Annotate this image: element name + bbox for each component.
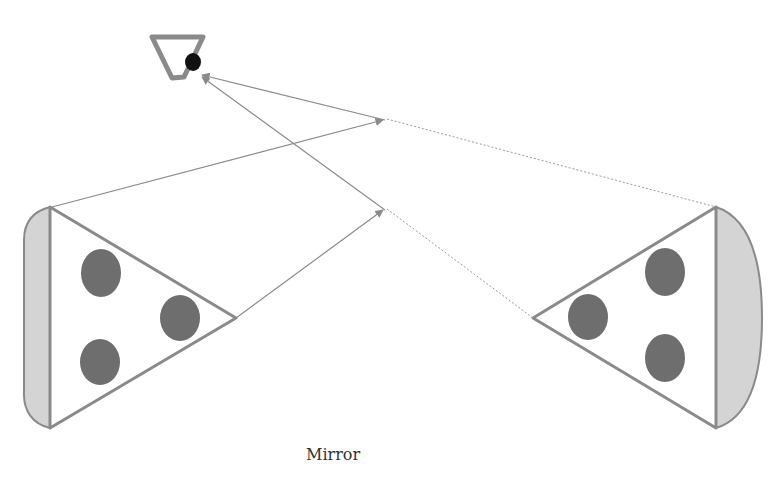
mirror-label: Mirror	[306, 445, 360, 464]
eye-icon	[152, 37, 203, 78]
image-dot-bottom	[645, 334, 685, 382]
object-triangle	[50, 207, 236, 428]
image-cap-shade	[716, 207, 762, 428]
mirror-diagram	[0, 0, 781, 477]
image-dot-top	[645, 248, 685, 296]
image-triangle	[533, 207, 716, 428]
object-dot-bottom	[80, 339, 120, 385]
object-cap-shade	[24, 207, 50, 428]
image-dot-left	[568, 294, 608, 340]
object-dot-top	[81, 249, 121, 297]
object-dot-right	[160, 295, 200, 341]
ray-incident-top	[52, 120, 383, 207]
ray-virtual-bottom	[387, 209, 533, 318]
ray-incident-bottom	[236, 210, 383, 318]
ray-virtual-top	[387, 119, 716, 207]
